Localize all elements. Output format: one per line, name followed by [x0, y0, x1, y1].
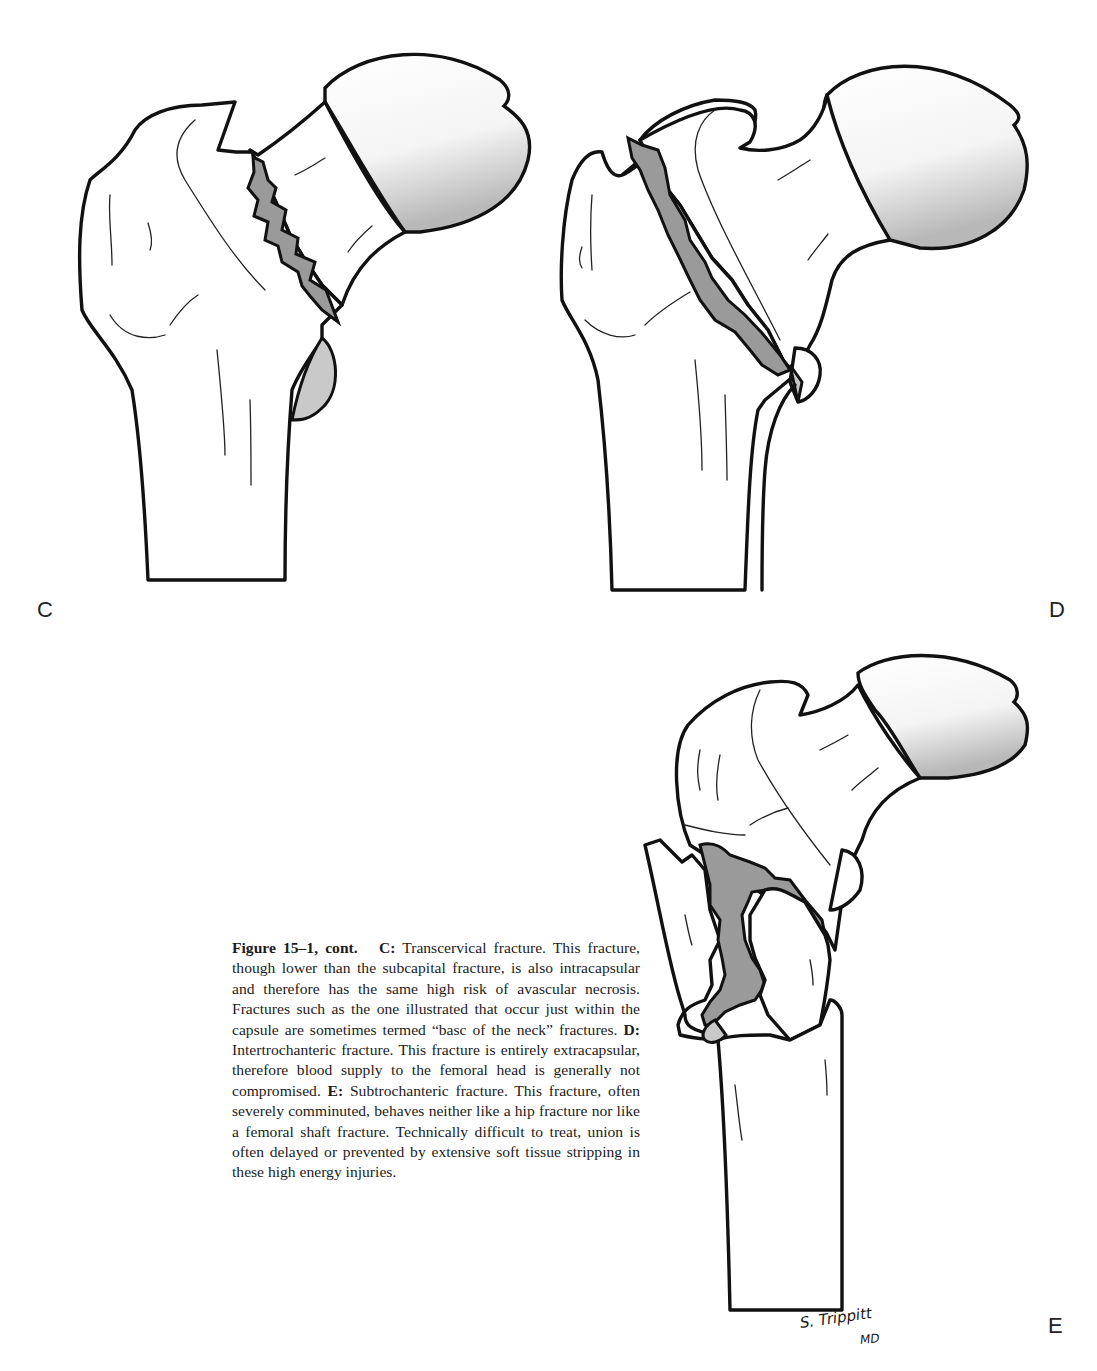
femur-subtrochanteric-fracture-illustration	[630, 640, 1040, 1330]
figure-panel-d: D	[540, 30, 1040, 620]
femur-intertrochanteric-fracture-illustration	[540, 30, 1040, 620]
signature-name: S. Trippitt	[799, 1304, 873, 1332]
caption-label-d: D:	[624, 1021, 640, 1038]
signature-credential: MD	[859, 1331, 880, 1347]
panel-label-c: C	[37, 597, 53, 623]
figure-panel-c: C	[60, 40, 540, 620]
caption-label-c: C:	[379, 939, 395, 956]
figure-caption: Figure 15–1, cont. C: Transcervical frac…	[232, 938, 640, 1183]
femur-transcervical-fracture-illustration	[60, 40, 540, 620]
figure-panel-e: E	[630, 640, 1040, 1330]
panel-label-e: E	[1048, 1313, 1063, 1339]
figure-number: Figure 15–1, cont.	[232, 939, 358, 956]
panel-label-d: D	[1049, 597, 1065, 623]
illustrator-signature: S. Trippitt MD	[800, 1306, 920, 1352]
caption-label-e: E:	[328, 1082, 344, 1099]
